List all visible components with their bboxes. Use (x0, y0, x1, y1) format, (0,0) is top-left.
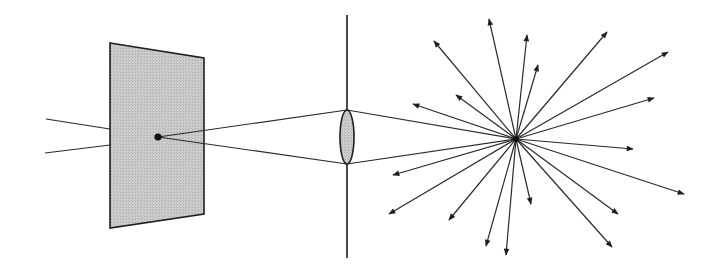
scattered-ray-arrow (516, 32, 607, 139)
scattered-rays-arrows (389, 19, 684, 255)
scattered-ray-arrow (516, 139, 633, 149)
diagram-canvas (0, 0, 715, 273)
source-point (154, 133, 161, 140)
rays-to-focus (347, 110, 516, 164)
incoming-ray (45, 145, 110, 153)
lens (340, 110, 354, 164)
ray-to-focus-bottom (347, 139, 516, 164)
scattered-ray-arrow (516, 52, 668, 139)
scattered-ray-arrow (449, 139, 516, 220)
scattered-ray-arrow (389, 139, 516, 214)
scattered-ray-arrow (516, 35, 527, 139)
scattered-ray-arrow (489, 19, 516, 139)
incoming-ray (46, 119, 110, 129)
incoming-rays (45, 119, 110, 153)
scattered-ray-arrow (393, 139, 516, 175)
scattered-ray-arrow (434, 41, 516, 139)
scattered-ray-arrow (413, 104, 516, 139)
scattered-ray-arrow (516, 98, 654, 139)
optics-diagram (0, 0, 715, 273)
ray-to-focus-top (347, 110, 516, 139)
focal-point (513, 136, 519, 142)
